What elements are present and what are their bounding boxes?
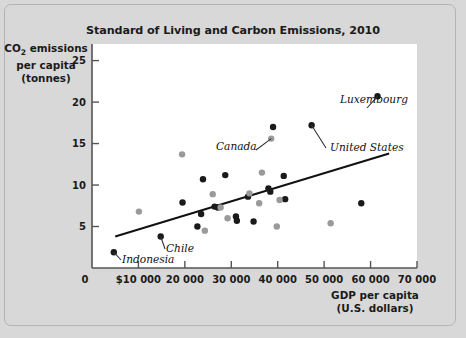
data-point [270, 124, 276, 130]
data-point [282, 196, 288, 202]
data-point [194, 223, 200, 229]
data-point [179, 151, 185, 157]
annotation-label: Indonesia [121, 253, 174, 265]
figure-container: Standard of Living and Carbon Emissions,… [0, 0, 466, 338]
y-tick-label: 25 [72, 55, 86, 66]
y-tick-label: 10 [72, 180, 86, 191]
data-point [202, 227, 208, 233]
data-point [276, 197, 282, 203]
data-point [222, 172, 228, 178]
data-point [358, 200, 364, 206]
data-point [250, 218, 256, 224]
data-point [136, 208, 142, 214]
plot-area-background [92, 44, 417, 268]
x-tick-label: 70 000 [398, 274, 436, 285]
data-point [179, 199, 185, 205]
data-point [267, 188, 273, 194]
data-point [217, 204, 223, 210]
y-tick-label: 20 [72, 97, 86, 108]
x-tick-label: 30 000 [212, 274, 250, 285]
x-tick-label: 50 000 [305, 274, 343, 285]
data-point [200, 176, 206, 182]
data-point [256, 200, 262, 206]
data-point [246, 190, 252, 196]
annotation-label: Luxembourg [339, 93, 408, 105]
data-point [234, 218, 240, 224]
annotation-label: United States [330, 141, 404, 153]
scatter-plot: 510152025 $10 00020 00030 00040 00050 00… [0, 0, 466, 338]
data-point [274, 223, 280, 229]
data-point [224, 215, 230, 221]
data-point [210, 191, 216, 197]
data-point [308, 122, 314, 128]
x-tick-label: $10 000 [116, 274, 161, 285]
data-point [259, 169, 265, 175]
data-point [198, 211, 204, 217]
y-tick-label: 5 [79, 221, 86, 232]
data-point [327, 220, 333, 226]
x-tick-label: 20 000 [166, 274, 204, 285]
x-tick-label: 60 000 [351, 274, 389, 285]
x-tick-label: 40 000 [259, 274, 297, 285]
x-axis-origin-label: 0 [82, 274, 89, 285]
y-tick-label: 15 [72, 138, 86, 149]
data-point [281, 173, 287, 179]
annotation-label: Canada [216, 140, 257, 152]
